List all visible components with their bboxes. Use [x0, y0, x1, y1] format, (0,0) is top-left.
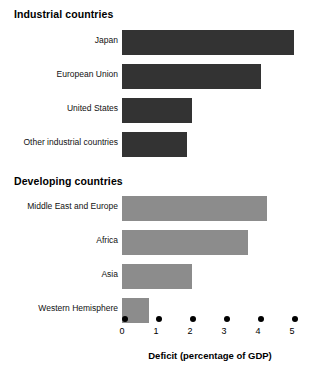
tick-label: 1 [148, 326, 164, 337]
x-axis-tick: 1 [153, 316, 164, 337]
tick-dot-icon [156, 316, 162, 322]
tick-dot-icon [224, 316, 230, 322]
bar-category-label: United States [0, 102, 118, 114]
section-heading-developing: Developing countries [14, 175, 123, 187]
bar-fill [122, 230, 248, 255]
x-axis-tick: 0 [119, 316, 130, 337]
x-axis: 012345 Deficit (percentage of GDP) [0, 316, 314, 373]
bar-fill [122, 264, 192, 289]
bar-fill [122, 30, 294, 55]
tick-label: 5 [284, 326, 300, 337]
bar-group-developing: Middle East and EuropeAfricaAsiaWestern … [0, 194, 314, 330]
tick-dot-icon [122, 316, 128, 322]
bar-category-label: Middle East and Europe [0, 200, 118, 212]
tick-label: 3 [216, 326, 232, 337]
section-heading-industrial: Industrial countries [14, 8, 113, 20]
deficit-bar-chart: Industrial countries JapanEuropean Union… [0, 0, 314, 373]
bar-category-label: Western Hemisphere [0, 302, 118, 314]
bar-row: Middle East and Europe [0, 194, 314, 228]
tick-dot-icon [190, 316, 196, 322]
bar-developing-2 [122, 264, 192, 289]
bar-fill [122, 64, 261, 89]
bar-industrial-3 [122, 132, 187, 157]
bar-developing-1 [122, 230, 248, 255]
tick-dot-icon [292, 316, 298, 322]
bar-industrial-1 [122, 64, 261, 89]
tick-label: 0 [114, 326, 130, 337]
bar-group-industrial: JapanEuropean UnionUnited StatesOther in… [0, 28, 314, 164]
bar-row: European Union [0, 62, 314, 96]
x-axis-tick: 4 [255, 316, 266, 337]
bar-fill [122, 132, 187, 157]
tick-label: 4 [250, 326, 266, 337]
bar-row: Asia [0, 262, 314, 296]
bar-fill [122, 196, 267, 221]
bar-category-label: Asia [0, 268, 118, 280]
bar-category-label: Japan [0, 34, 118, 46]
tick-dot-icon [258, 316, 264, 322]
bar-row: Other industrial countries [0, 130, 314, 164]
bar-industrial-2 [122, 98, 192, 123]
x-axis-tick: 2 [187, 316, 198, 337]
x-axis-tick: 3 [221, 316, 232, 337]
bar-row: Africa [0, 228, 314, 262]
bar-category-label: Other industrial countries [0, 136, 118, 148]
x-axis-tick: 5 [289, 316, 300, 337]
bar-developing-0 [122, 196, 267, 221]
bar-category-label: European Union [0, 68, 118, 80]
bar-row: United States [0, 96, 314, 130]
tick-label: 2 [182, 326, 198, 337]
bar-industrial-0 [122, 30, 294, 55]
bar-category-label: Africa [0, 234, 118, 246]
x-axis-title: Deficit (percentage of GDP) [122, 350, 298, 361]
bar-row: Japan [0, 28, 314, 62]
bar-fill [122, 98, 192, 123]
